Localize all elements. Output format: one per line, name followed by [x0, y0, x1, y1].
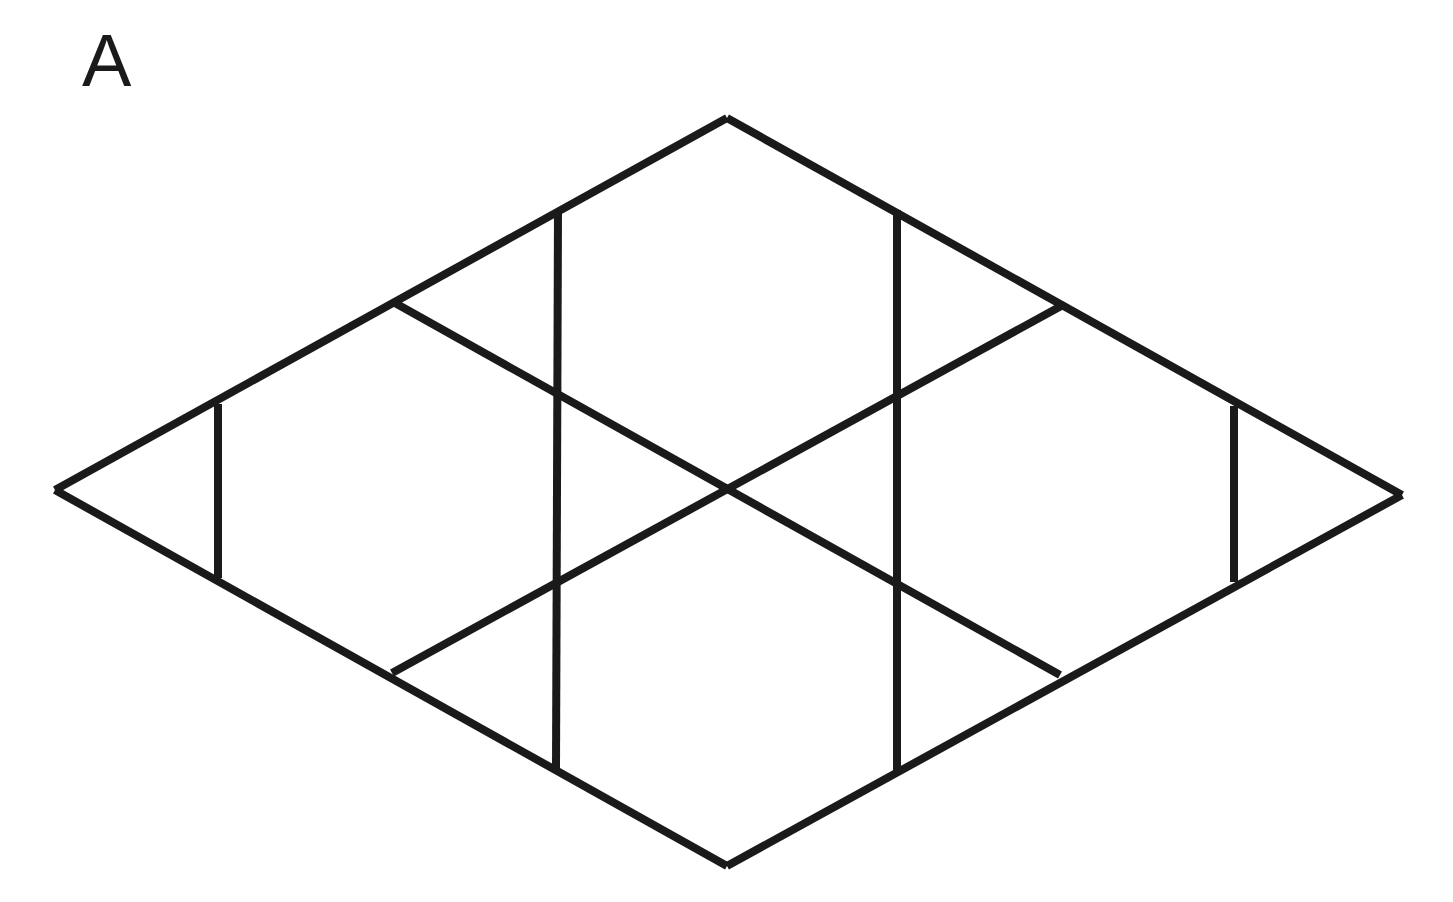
diagram-segment-vertical-center-left	[556, 210, 558, 770]
geometric-diagram	[0, 0, 1453, 902]
figure-panel: A	[0, 0, 1453, 902]
panel-label-a: A	[82, 24, 131, 98]
